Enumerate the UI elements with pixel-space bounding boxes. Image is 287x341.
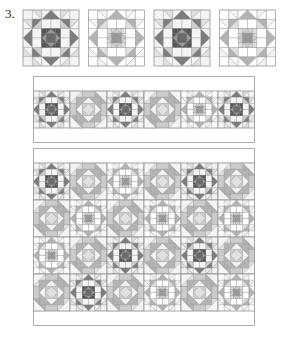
quilt-block-r2c4 bbox=[144, 200, 181, 237]
quilt-block-r1c3 bbox=[107, 163, 144, 200]
full-quilt-panel bbox=[33, 148, 255, 326]
figure-number: 3. bbox=[5, 6, 15, 22]
strip-block-2 bbox=[70, 91, 107, 128]
quilt-block-r4c4 bbox=[144, 274, 181, 311]
quilt-block-r3c1 bbox=[33, 237, 70, 274]
quilt-block-r4c6 bbox=[218, 274, 255, 311]
quilt-row-2 bbox=[33, 200, 255, 237]
sample-block-4 bbox=[220, 10, 276, 66]
quilt-block-r2c6 bbox=[218, 200, 255, 237]
quilt-figure: 3. bbox=[0, 0, 287, 341]
strip-block-3 bbox=[107, 91, 144, 128]
block-row-panel bbox=[22, 8, 281, 70]
quilt-block-r1c5 bbox=[181, 163, 218, 200]
sample-block-1 bbox=[23, 10, 79, 66]
sample-block-2 bbox=[89, 10, 145, 66]
quilt-block-r3c6 bbox=[218, 237, 255, 274]
strip-block-4 bbox=[144, 91, 181, 128]
quilt-block-r1c1 bbox=[33, 163, 70, 200]
quilt-block-r2c2 bbox=[70, 200, 107, 237]
quilt-block-r4c2 bbox=[70, 274, 107, 311]
strip-row-panel bbox=[33, 76, 255, 143]
quilt-block-r1c4 bbox=[144, 163, 181, 200]
quilt-row-4 bbox=[33, 274, 255, 311]
full-quilt-svg bbox=[33, 148, 255, 326]
strip-block-5 bbox=[181, 91, 218, 128]
quilt-block-r1c2 bbox=[70, 163, 107, 200]
strip-block-6 bbox=[218, 91, 255, 128]
quilt-block-r3c3 bbox=[107, 237, 144, 274]
quilt-block-r2c1 bbox=[33, 200, 70, 237]
block-row-svg bbox=[22, 8, 281, 70]
quilt-block-r2c5 bbox=[181, 200, 218, 237]
quilt-block-r3c2 bbox=[70, 237, 107, 274]
strip-block-1 bbox=[33, 91, 70, 128]
quilt-block-r2c3 bbox=[107, 200, 144, 237]
quilt-block-r3c5 bbox=[181, 237, 218, 274]
strip-row-svg bbox=[33, 76, 255, 143]
quilt-block-r1c6 bbox=[218, 163, 255, 200]
quilt-block-r4c5 bbox=[181, 274, 218, 311]
quilt-block-r4c3 bbox=[107, 274, 144, 311]
quilt-block-r4c1 bbox=[33, 274, 70, 311]
quilt-block-r3c4 bbox=[144, 237, 181, 274]
sample-block-3 bbox=[154, 10, 210, 66]
quilt-row-1 bbox=[33, 163, 255, 200]
quilt-row-3 bbox=[33, 237, 255, 274]
